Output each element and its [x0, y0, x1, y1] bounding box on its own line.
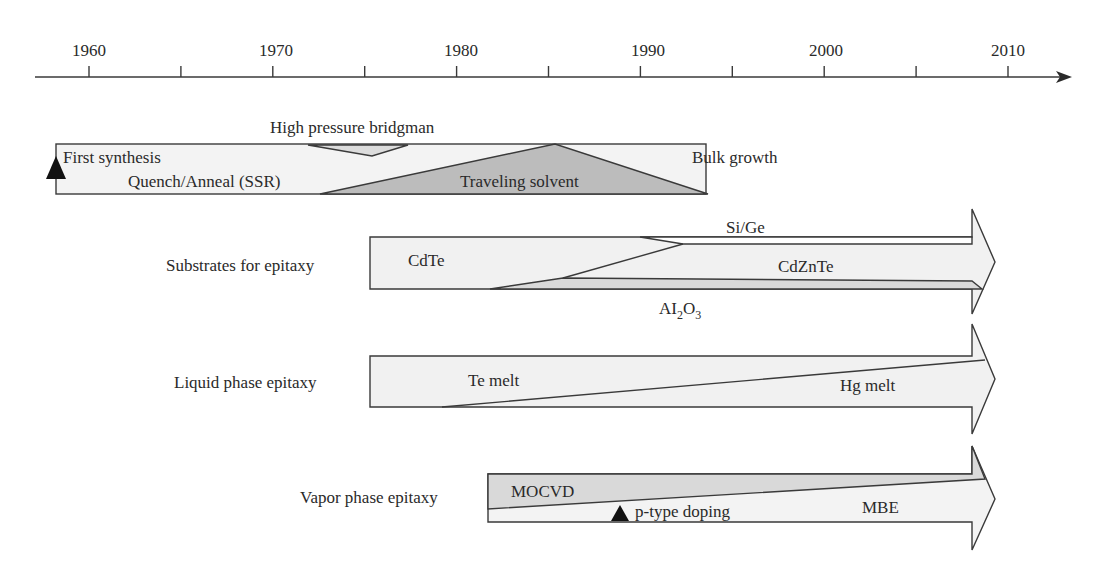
- mocvd-label: MOCVD: [511, 482, 574, 501]
- hg-melt-label: Hg melt: [840, 376, 896, 395]
- te-melt-label: Te melt: [468, 371, 519, 390]
- tick-label-1960: 1960: [72, 41, 106, 60]
- row-substrates-for-epitaxy: Substrates for epitaxy CdTe Si/Ge CdZnTe…: [166, 209, 995, 322]
- lpe-label: Liquid phase epitaxy: [174, 373, 317, 392]
- al2o3-label: AI2O3: [659, 299, 701, 322]
- high-pressure-bridgman-label: High pressure bridgman: [270, 118, 435, 137]
- bulk-growth-label: Bulk growth: [692, 148, 778, 167]
- mbe-label: MBE: [862, 498, 899, 517]
- tick-label-1970: 1970: [259, 41, 293, 60]
- technology-timeline-diagram: 1960 1970 1980 1990 2000 2010 High press…: [0, 0, 1110, 566]
- quench-anneal-label: Quench/Anneal (SSR): [128, 172, 281, 191]
- si-ge-region: [640, 237, 972, 244]
- tick-label-1980: 1980: [444, 41, 478, 60]
- p-type-doping-label: p-type doping: [635, 502, 730, 521]
- tick-label-2000: 2000: [809, 41, 843, 60]
- tick-label-2010: 2010: [991, 41, 1025, 60]
- si-ge-label: Si/Ge: [726, 218, 765, 237]
- vpe-label: Vapor phase epitaxy: [300, 488, 438, 507]
- traveling-solvent-label: Traveling solvent: [460, 172, 579, 191]
- cdte-label: CdTe: [408, 251, 445, 270]
- row-bulk-growth: High pressure bridgman First synthesis Q…: [46, 118, 778, 194]
- substrates-label: Substrates for epitaxy: [166, 256, 315, 275]
- tick-label-1990: 1990: [631, 41, 665, 60]
- row-vapor-phase-epitaxy: Vapor phase epitaxy MOCVD p-type doping …: [300, 446, 995, 550]
- first-synthesis-label: First synthesis: [63, 148, 161, 167]
- time-axis: 1960 1970 1980 1990 2000 2010: [35, 41, 1072, 83]
- lpe-arrow: [370, 324, 995, 434]
- row-liquid-phase-epitaxy: Liquid phase epitaxy Te melt Hg melt: [174, 324, 995, 434]
- cdznte-label: CdZnTe: [778, 257, 833, 276]
